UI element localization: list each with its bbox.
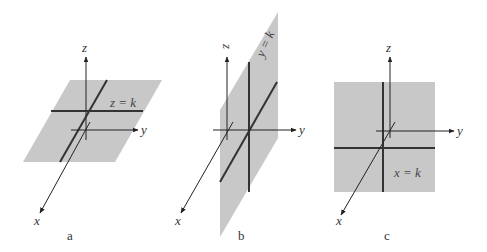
panel-caption: c <box>384 228 390 243</box>
panel-caption: a <box>67 228 73 243</box>
z-axis-label: z <box>385 40 391 55</box>
panel-a: z y x z = k a <box>23 40 162 243</box>
z-axis-label: z <box>220 43 235 49</box>
x-axis-label: x <box>335 213 342 228</box>
y-axis-label: y <box>455 123 463 138</box>
equation-label: x = k <box>393 165 421 180</box>
panel-caption: b <box>238 228 245 243</box>
y-axis-label: y <box>297 122 305 137</box>
x-axis-label: x <box>174 213 181 228</box>
plane-z-equals-k <box>23 80 162 162</box>
y-axis-label: y <box>139 122 147 137</box>
x-axis-label: x <box>33 213 40 228</box>
panel-b: z y x y = k b <box>174 12 305 243</box>
panel-c: z y x x = k c <box>334 40 463 243</box>
figure-canvas: z y x z = k a z y x y = k b z y x x = k … <box>0 0 487 252</box>
z-axis-label: z <box>81 40 87 55</box>
equation-label: z = k <box>109 95 136 110</box>
